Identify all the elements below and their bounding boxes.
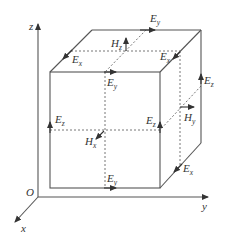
label-hx: Hx: [84, 135, 97, 150]
label-ex-bottom-right: Ex: [182, 162, 194, 177]
yee-cell-diagram: z O x y Ey Ex Ex Ey Ez Ez Ez Ey Ex Hz Hx…: [0, 0, 225, 236]
ex-top-left-arrow: [63, 50, 72, 59]
label-ey-bottom-front: Ey: [106, 172, 118, 187]
label-hz: Hz: [110, 37, 122, 52]
label-ey-top-back: Ey: [149, 12, 161, 27]
label-ez-front-left: Ez: [54, 113, 65, 128]
label-ex-top-left: Ex: [71, 53, 83, 68]
label-ey-top-front: Ey: [106, 76, 118, 91]
origin-label: O: [26, 186, 34, 198]
hx-arrow: [96, 131, 104, 139]
ex-top-right-arrow: [173, 52, 180, 59]
z-axis-label: z: [28, 20, 34, 32]
labels: z O x y Ey Ex Ex Ey Ez Ez Ez Ey Ex Hz Hx…: [20, 12, 214, 234]
label-ez-front-right: Ez: [145, 114, 156, 129]
x-axis-label: x: [20, 222, 26, 234]
label-ez-back-right: Ez: [203, 74, 214, 89]
x-axis: [15, 197, 38, 222]
ex-bottom-right-arrow: [174, 164, 182, 172]
label-hy: Hy: [183, 111, 196, 126]
y-axis-label: y: [201, 200, 207, 212]
label-ex-top-right: Ex: [159, 50, 171, 65]
